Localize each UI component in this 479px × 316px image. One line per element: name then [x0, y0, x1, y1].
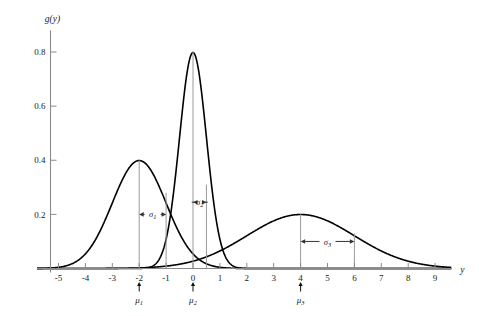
sigma-label: σ1 — [149, 209, 156, 220]
x-tick-label: -5 — [55, 273, 63, 283]
sigma-arrowhead-left — [139, 212, 144, 217]
axes-layer — [37, 30, 451, 272]
y-tick-label: 0.8 — [34, 47, 46, 57]
x-tick-label: -1 — [162, 273, 170, 283]
mu-subscript: 3 — [300, 299, 305, 306]
figure-container: -5-4-3-2-101234567890.20.40.60.8 μ1μ2μ3σ… — [0, 0, 479, 316]
axis-ticks-layer — [51, 52, 436, 269]
x-tick-label: -4 — [82, 273, 90, 283]
sigma-span: σ2 — [192, 197, 208, 208]
mu-marker-arrowhead — [191, 282, 195, 286]
x-tick-label: 8 — [406, 273, 411, 283]
x-tick-label: -2 — [135, 273, 143, 283]
axis-tick-labels-layer: -5-4-3-2-101234567890.20.40.60.8 — [34, 47, 438, 282]
sigma-arrowhead-right — [350, 239, 355, 244]
sigma-arrowhead-left — [301, 239, 306, 244]
sigma-span: σ1 — [139, 209, 166, 220]
sigma-label: σ2 — [196, 197, 204, 208]
x-tick-label: 5 — [325, 273, 330, 283]
density-curve-g3 — [37, 215, 451, 269]
mu-marker-arrowhead — [299, 282, 303, 286]
x-tick-label: -3 — [109, 273, 117, 283]
mu-label: μ1 — [134, 295, 143, 306]
mu-subscript: 2 — [194, 299, 198, 306]
x-tick-label: 4 — [298, 273, 303, 283]
density-curve-g1 — [37, 161, 451, 269]
x-tick-label: 3 — [271, 273, 276, 283]
y-axis-title: g(y) — [45, 14, 60, 25]
mu-marker-arrowhead — [137, 282, 141, 286]
annotations-layer: μ1μ2μ3σ1σ2σ3 — [134, 197, 354, 305]
density-curve-g2 — [37, 53, 451, 269]
mu-label: μ2 — [188, 295, 198, 306]
x-tick-label: 6 — [352, 273, 357, 283]
x-tick-label: 7 — [379, 273, 384, 283]
mu-label: μ3 — [296, 295, 306, 306]
normal-distributions-chart: -5-4-3-2-101234567890.20.40.60.8 μ1μ2μ3σ… — [0, 0, 479, 316]
y-tick-label: 0.2 — [34, 210, 45, 220]
sigma-arrowhead-right — [162, 212, 167, 217]
x-tick-label: 2 — [245, 273, 250, 283]
sigma-subscript: 1 — [153, 213, 156, 220]
x-tick-label: 0 — [191, 273, 196, 283]
y-tick-label: 0.4 — [34, 155, 46, 165]
x-tick-label: 1 — [218, 273, 223, 283]
mu-subscript: 1 — [140, 299, 143, 306]
y-tick-label: 0.6 — [34, 101, 46, 111]
x-tick-label: 9 — [433, 273, 438, 283]
sigma-label: σ3 — [324, 237, 332, 248]
curves-layer — [37, 53, 451, 269]
sigma-span: σ3 — [301, 237, 355, 248]
x-axis-title: y — [459, 265, 465, 275]
sigma-subscript: 3 — [327, 241, 332, 248]
